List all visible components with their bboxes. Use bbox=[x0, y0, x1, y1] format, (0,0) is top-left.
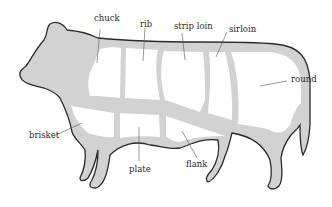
label-brisket: brisket bbox=[29, 131, 59, 140]
cow-illustration bbox=[0, 0, 332, 207]
label-round: round bbox=[291, 75, 317, 84]
label-strip-loin: strip loin bbox=[174, 22, 213, 31]
label-rib: rib bbox=[140, 20, 152, 29]
label-flank: flank bbox=[186, 160, 207, 169]
beef-cuts-diagram: chuck rib strip loin sirloin round brisk… bbox=[0, 0, 332, 207]
label-sirloin: sirloin bbox=[229, 25, 256, 34]
cut-rib bbox=[125, 48, 160, 100]
cut-plate bbox=[120, 113, 160, 138]
label-plate: plate bbox=[129, 165, 151, 174]
label-chuck: chuck bbox=[94, 14, 120, 23]
cut-round bbox=[231, 52, 301, 133]
